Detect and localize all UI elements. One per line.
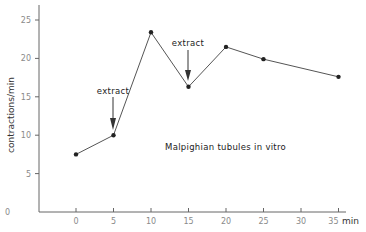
x-tick-label: 10 <box>146 217 156 226</box>
arrow-down-icon <box>185 50 191 81</box>
y-tick-label: 25 <box>21 16 31 25</box>
data-point <box>224 45 228 49</box>
x-tick-label: 15 <box>183 217 193 226</box>
y-tick-label: 15 <box>21 93 31 102</box>
x-tick-label: 20 <box>221 217 231 226</box>
x-tick-label: 35 <box>328 217 338 226</box>
x-tick-label: 0 <box>73 217 78 226</box>
y-tick-label: 10 <box>21 131 31 140</box>
x-ticks: 05101520253035 <box>73 208 338 226</box>
data-point <box>111 133 115 137</box>
chart-caption: Malpighian tubules in vitro <box>165 142 286 152</box>
y-tick-label: 0 <box>5 208 10 217</box>
extract-label-1: extract <box>97 86 130 96</box>
data-point <box>261 57 265 61</box>
line-chart: 0510152025 05101520253035 contractions/m… <box>0 0 366 232</box>
data-point <box>149 30 153 34</box>
data-point <box>336 75 340 79</box>
y-tick-label: 5 <box>26 170 31 179</box>
x-axis-unit: min <box>342 216 359 226</box>
extract-label-2: extract <box>172 38 205 48</box>
x-tick-label: 30 <box>296 217 306 226</box>
data-point <box>74 152 78 156</box>
arrow-down-icon <box>110 97 116 130</box>
y-tick-label: 20 <box>21 54 31 63</box>
x-tick-label: 5 <box>111 217 116 226</box>
x-tick-label: 25 <box>258 217 268 226</box>
y-axis-title: contractions/min <box>6 77 16 153</box>
data-point <box>186 85 190 89</box>
